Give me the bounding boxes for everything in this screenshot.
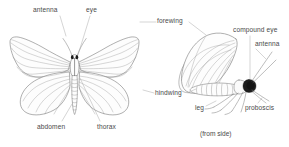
caption-from-side: (from side): [200, 130, 232, 137]
label-antenna-right: antenna: [255, 40, 280, 47]
label-eye-left: eye: [86, 6, 97, 13]
label-compound-eye: compound eye: [233, 26, 277, 33]
label-proboscis: proboscis: [245, 104, 274, 111]
label-thorax: thorax: [97, 123, 116, 130]
label-leg: leg: [195, 104, 204, 111]
label-forewing: forewing: [157, 17, 183, 24]
label-antenna-left: antenna: [33, 6, 58, 13]
label-hindwing: hindwing: [155, 89, 182, 96]
label-abdomen: abdomen: [37, 123, 65, 130]
dorsal-left-eye: [71, 55, 74, 59]
dorsal-right-eye: [76, 55, 79, 59]
anatomy-diagram: antenna eye forewing compound eye antenn…: [0, 0, 289, 147]
